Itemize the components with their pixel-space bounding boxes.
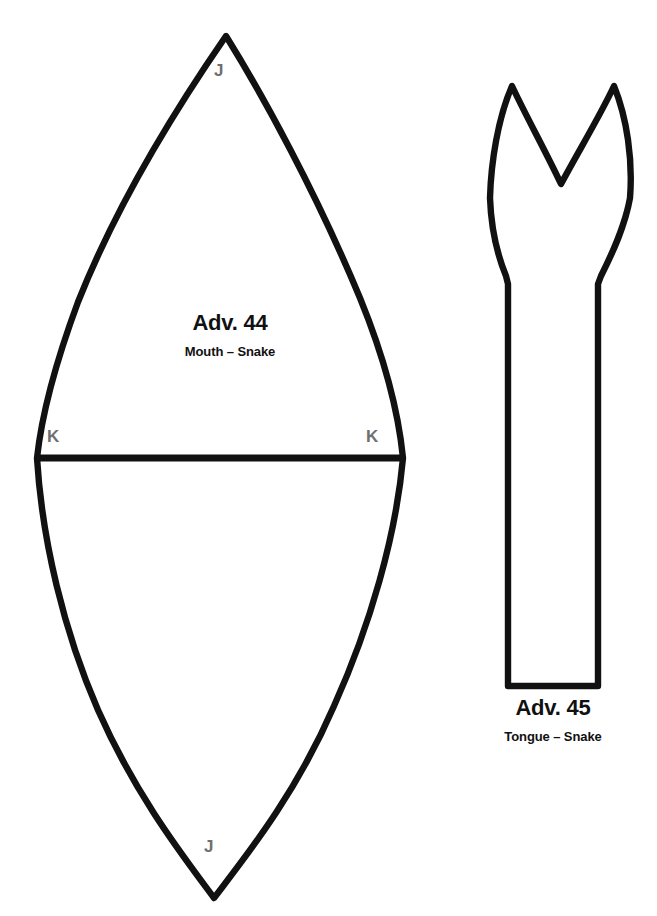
registration-mark-k-left: K xyxy=(47,428,59,445)
piece-outline-adv-44 xyxy=(37,36,403,898)
piece-subtitle-adv-44: Mouth – Snake xyxy=(110,345,350,358)
piece-title-adv-45: Adv. 45 xyxy=(433,697,657,719)
piece-outline-adv-45 xyxy=(490,86,631,686)
registration-mark-j-bottom: J xyxy=(204,838,213,855)
tongue-snake-outline xyxy=(490,86,631,686)
mouth-snake-outline xyxy=(37,36,403,898)
piece-title-adv-44: Adv. 44 xyxy=(110,312,350,334)
pattern-drawing xyxy=(0,0,657,916)
piece-subtitle-adv-45: Tongue – Snake xyxy=(433,730,657,743)
registration-mark-k-right: K xyxy=(366,428,378,445)
pattern-sheet: . J K K J Adv. 44 Mouth – Snake Adv. 45 … xyxy=(0,0,657,916)
registration-mark-j-top: J xyxy=(214,62,223,79)
